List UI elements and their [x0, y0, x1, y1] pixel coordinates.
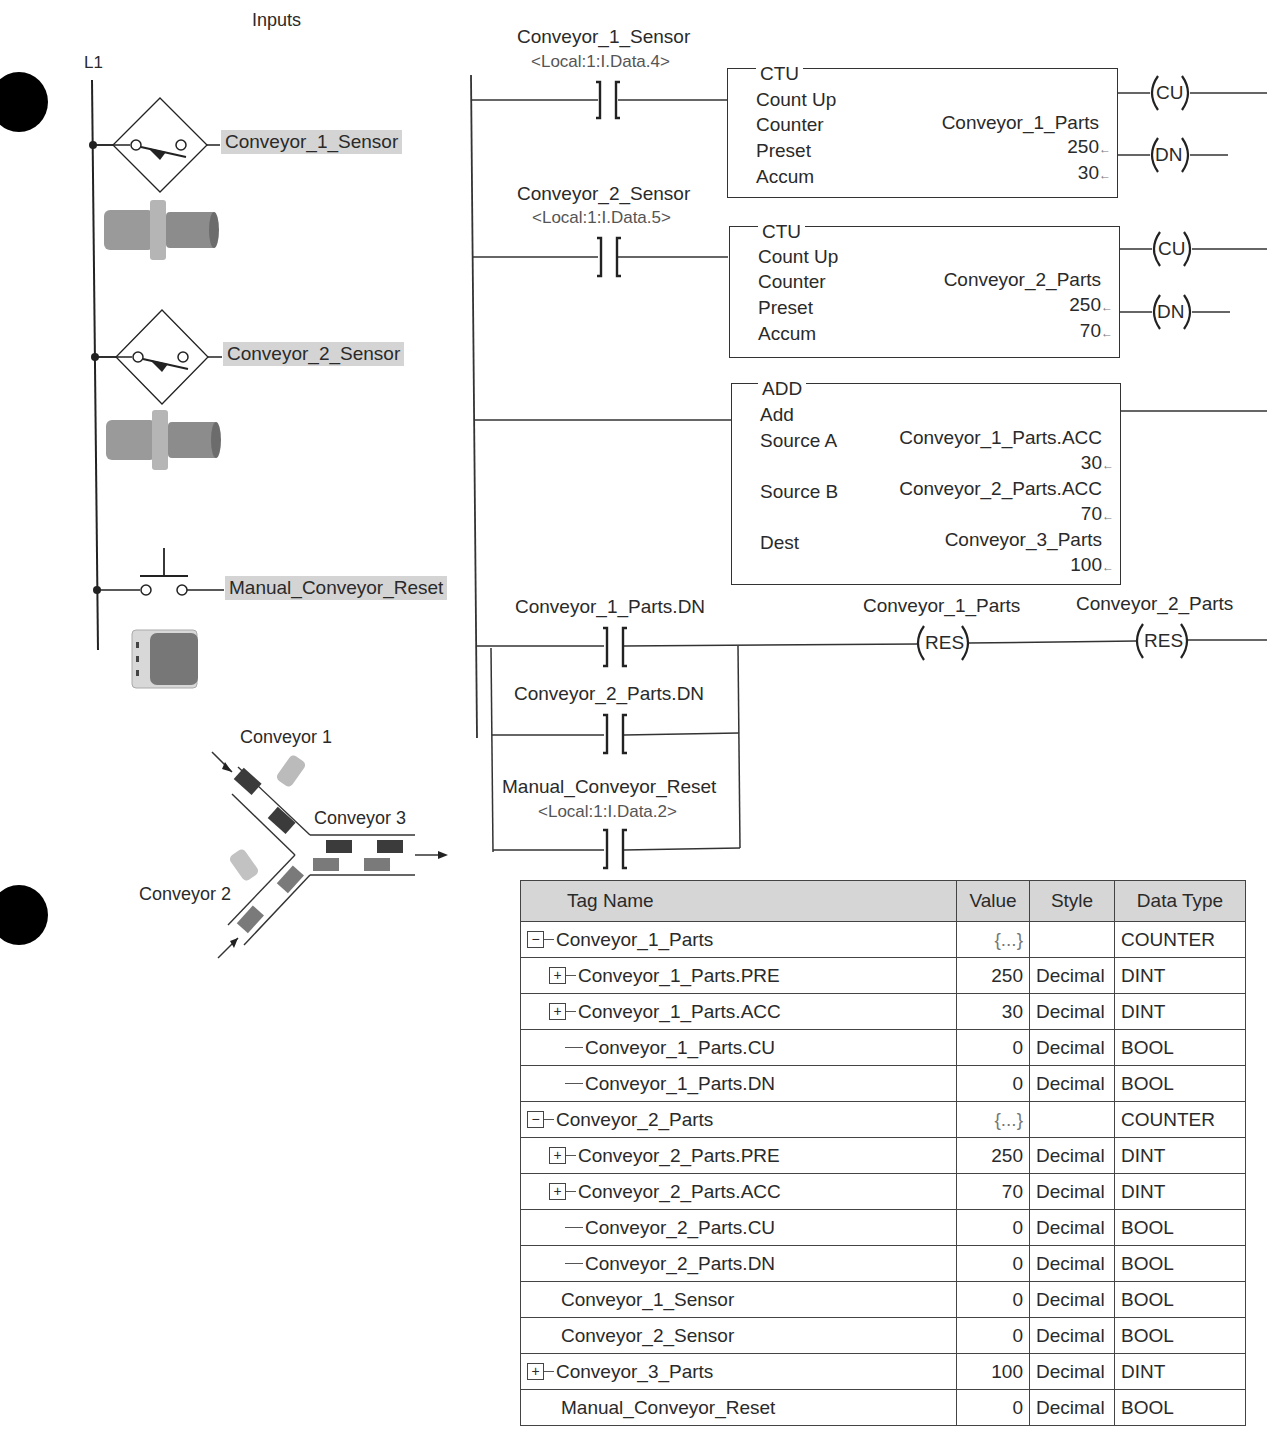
ctu1-instruction: CTU	[756, 63, 803, 85]
conveyor-1-label: Conveyor 1	[240, 727, 332, 748]
prox-sensor-photo-1	[104, 200, 219, 260]
tag-table-header: Tag Name Value Style Data Type	[521, 881, 1246, 922]
ctu2-preset-value[interactable]: 250←	[1069, 294, 1113, 316]
ctu1-accum-value[interactable]: 30←	[1078, 162, 1111, 184]
table-row[interactable]: −Conveyor_1_Parts {...} COUNTER	[521, 922, 1246, 958]
res-coil-1: RES	[925, 632, 964, 654]
value-arrow-icon: ←	[1102, 509, 1114, 523]
table-row[interactable]: +Conveyor_3_Parts 100 Decimal DINT	[521, 1354, 1246, 1390]
add-dest-value: 100←	[1070, 554, 1114, 576]
add-source-a-label: Source A	[760, 430, 837, 452]
ctu1-cu-output: CU	[1156, 82, 1183, 104]
ctu2-cu-output: CU	[1158, 238, 1185, 260]
rung2-contact-address: <Local:1:I.Data.5>	[532, 208, 671, 228]
ctu2-accum-label: Accum	[758, 323, 816, 345]
rung4-contact-1-tag[interactable]: Conveyor_1_Parts.DN	[515, 596, 705, 618]
value-arrow-icon: ←	[1101, 326, 1113, 340]
ctu1-accum-label: Accum	[756, 166, 814, 188]
expand-icon[interactable]: +	[549, 967, 566, 984]
conveyor-parts	[234, 768, 403, 934]
add-source-a-value: 30←	[1081, 452, 1114, 474]
input-label-manual-reset: Manual_Conveyor_Reset	[225, 576, 447, 600]
prox-sensor-photo-2	[106, 410, 221, 470]
add-source-b-label: Source B	[760, 481, 838, 503]
table-row[interactable]: Conveyor_1_Parts.CU 0 Decimal BOOL	[521, 1030, 1246, 1066]
table-row[interactable]: Conveyor_2_Parts.DN 0 Decimal BOOL	[521, 1246, 1246, 1282]
add-instruction: ADD	[758, 378, 806, 400]
value-arrow-icon: ←	[1101, 300, 1113, 314]
ctu2-counter-label: Counter	[758, 271, 826, 293]
collapse-icon[interactable]: −	[527, 931, 544, 948]
table-row[interactable]: Conveyor_2_Parts.CU 0 Decimal BOOL	[521, 1210, 1246, 1246]
rung4-contact-2-tag[interactable]: Conveyor_2_Parts.DN	[514, 683, 704, 705]
ctu2-description: Count Up	[758, 246, 838, 268]
table-row[interactable]: Conveyor_2_Sensor 0 Decimal BOOL	[521, 1318, 1246, 1354]
input-label-conveyor-2-sensor: Conveyor_2_Sensor	[223, 342, 404, 366]
table-row[interactable]: −Conveyor_2_Parts {...} COUNTER	[521, 1102, 1246, 1138]
table-row[interactable]: +Conveyor_1_Parts.ACC 30 Decimal DINT	[521, 994, 1246, 1030]
pushbutton-photo	[132, 630, 198, 688]
ctu2-counter-value[interactable]: Conveyor_2_Parts	[944, 269, 1101, 291]
rung4-contact-3-address: <Local:1:I.Data.2>	[538, 802, 677, 822]
expand-icon[interactable]: +	[549, 1183, 566, 1200]
ctu2-preset-label: Preset	[758, 297, 813, 319]
add-source-b-tag[interactable]: Conveyor_2_Parts.ACC	[899, 478, 1102, 500]
ctu2-dn-output: DN	[1157, 301, 1184, 323]
expand-icon[interactable]: +	[549, 1147, 566, 1164]
table-row[interactable]: Manual_Conveyor_Reset 0 Decimal BOOL	[521, 1390, 1246, 1426]
ctu1-counter-value[interactable]: Conveyor_1_Parts	[942, 112, 1099, 134]
value-arrow-icon: ←	[1102, 560, 1114, 574]
expand-icon[interactable]: +	[527, 1363, 544, 1380]
rung1-contact-tag[interactable]: Conveyor_1_Sensor	[517, 26, 690, 48]
res-coil-1-tag[interactable]: Conveyor_1_Parts	[863, 595, 1020, 617]
col-data-type[interactable]: Data Type	[1115, 881, 1246, 922]
add-dest-label: Dest	[760, 532, 799, 554]
value-arrow-icon: ←	[1102, 458, 1114, 472]
ctu2-accum-value[interactable]: 70←	[1080, 320, 1113, 342]
table-row[interactable]: +Conveyor_2_Parts.ACC 70 Decimal DINT	[521, 1174, 1246, 1210]
add-source-a-tag[interactable]: Conveyor_1_Parts.ACC	[899, 427, 1102, 449]
ctu1-dn-output: DN	[1155, 144, 1182, 166]
value-arrow-icon: ←	[1099, 142, 1111, 156]
add-dest-tag[interactable]: Conveyor_3_Parts	[945, 529, 1102, 551]
table-row[interactable]: +Conveyor_1_Parts.PRE 250 Decimal DINT	[521, 958, 1246, 994]
expand-icon[interactable]: +	[549, 1003, 566, 1020]
col-value[interactable]: Value	[957, 881, 1030, 922]
ctu2-instruction: CTU	[758, 221, 805, 243]
ctu1-preset-label: Preset	[756, 140, 811, 162]
ctu1-preset-value[interactable]: 250←	[1067, 136, 1111, 158]
rung4-contact-3-tag[interactable]: Manual_Conveyor_Reset	[502, 776, 716, 798]
ctu-block-1[interactable]: CTU Count Up Counter Preset Accum Convey…	[727, 68, 1118, 198]
table-row[interactable]: Conveyor_1_Parts.DN 0 Decimal BOOL	[521, 1066, 1246, 1102]
res-coil-2: RES	[1144, 630, 1183, 652]
conveyor-2-label: Conveyor 2	[139, 884, 231, 905]
input-label-conveyor-1-sensor: Conveyor_1_Sensor	[221, 130, 402, 154]
ctu-block-2[interactable]: CTU Count Up Counter Preset Accum Convey…	[729, 226, 1120, 358]
ctu1-description: Count Up	[756, 89, 836, 111]
ctu1-counter-label: Counter	[756, 114, 824, 136]
add-description: Add	[760, 404, 794, 426]
value-arrow-icon: ←	[1099, 168, 1111, 182]
col-style[interactable]: Style	[1030, 881, 1115, 922]
rung2-contact-tag[interactable]: Conveyor_2_Sensor	[517, 183, 690, 205]
conveyor-3-label: Conveyor 3	[314, 808, 406, 829]
collapse-icon[interactable]: −	[527, 1111, 544, 1128]
rung1-contact-address: <Local:1:I.Data.4>	[531, 52, 670, 72]
col-tag-name[interactable]: Tag Name	[521, 881, 957, 922]
table-row[interactable]: +Conveyor_2_Parts.PRE 250 Decimal DINT	[521, 1138, 1246, 1174]
table-row[interactable]: Conveyor_1_Sensor 0 Decimal BOOL	[521, 1282, 1246, 1318]
res-coil-2-tag[interactable]: Conveyor_2_Parts	[1076, 593, 1233, 615]
tag-table: Tag Name Value Style Data Type −Conveyor…	[520, 880, 1246, 1426]
add-source-b-value: 70←	[1081, 503, 1114, 525]
add-block[interactable]: ADD Add Source A Conveyor_1_Parts.ACC 30…	[731, 383, 1121, 585]
